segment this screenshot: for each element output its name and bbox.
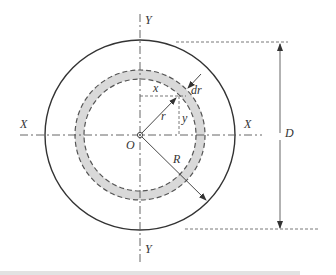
- label-x-coord: x: [152, 81, 159, 95]
- label-y-top: Y: [145, 13, 153, 27]
- radius-r-line: [140, 98, 176, 135]
- label-y-bottom: Y: [145, 242, 153, 256]
- origin-dot: [139, 134, 141, 136]
- label-x-right: X: [243, 117, 252, 131]
- label-R: R: [172, 152, 181, 166]
- label-x-left: X: [19, 117, 28, 131]
- label-dr: dr: [191, 83, 202, 97]
- label-y-coord: y: [181, 111, 188, 125]
- label-origin: O: [126, 138, 135, 152]
- circular-section-diagram: Y Y X X O r R dr x y D: [0, 0, 336, 275]
- bottom-divider: [0, 271, 300, 275]
- label-r: r: [161, 109, 166, 123]
- label-diameter: D: [284, 126, 294, 140]
